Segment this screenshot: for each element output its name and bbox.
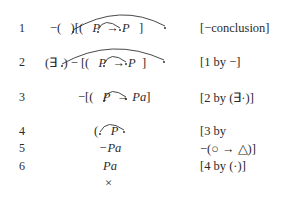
- justification: [4 by (·)]: [200, 159, 246, 174]
- formula: Pa: [103, 159, 117, 174]
- justification: −(○ → △)]: [200, 141, 256, 157]
- formula: −Pa: [99, 141, 121, 156]
- justification: [3 by: [200, 124, 226, 139]
- justification: [−conclusion]: [200, 21, 270, 36]
- branch-closed-mark: ×: [105, 176, 112, 191]
- line-number: 6: [19, 159, 25, 174]
- line-number: 1: [19, 21, 25, 36]
- line-number: 5: [19, 141, 25, 156]
- line-number: 2: [19, 55, 25, 70]
- formula: (∃ ) − [( P → P ]: [45, 55, 146, 71]
- formula: −( )[( P → P ]: [50, 21, 143, 36]
- formula: ( P: [94, 124, 118, 139]
- line-number: 3: [19, 90, 25, 105]
- justification: [2 by (∃·)]: [200, 90, 254, 106]
- line-number: 4: [19, 124, 25, 139]
- justification: [1 by −]: [200, 55, 240, 70]
- formula: −[( P → Pa]: [78, 90, 150, 105]
